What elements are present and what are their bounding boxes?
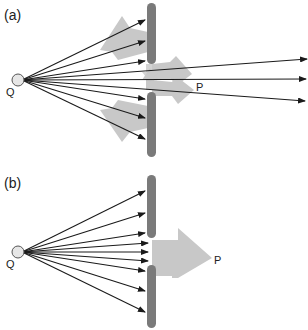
barrier-lower-b [147,265,156,328]
target-label-b: P [214,254,221,266]
diffraction-diagram: (a) Q P (b) Q P [0,0,308,330]
source-q-icon [12,246,24,258]
source-q-icon [12,74,24,86]
wave-arrow-through-gap-icon [152,228,212,278]
source-label-b: Q [6,258,15,270]
barrier-upper-b [147,175,156,238]
barrier-upper [147,3,156,64]
target-label-a: P [196,81,203,93]
rays-a [22,20,307,139]
panel-b-label: (b) [4,175,21,191]
rays-b [22,191,148,312]
panel-a: (a) Q P [4,3,307,157]
source-label-a: Q [6,86,15,98]
panel-b: (b) Q P [4,175,221,328]
barrier-lower [147,92,156,157]
panel-a-label: (a) [4,7,21,23]
